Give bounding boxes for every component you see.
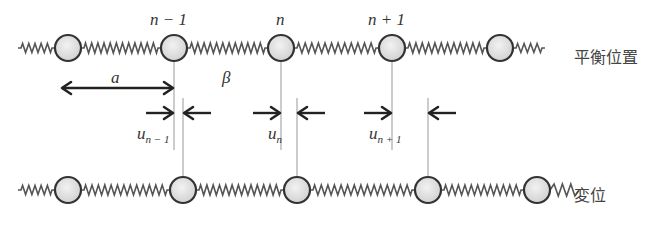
mass-ball-icon	[170, 177, 196, 203]
mass-ball-icon	[161, 35, 187, 61]
spring-mass-chain-diagram	[0, 0, 660, 231]
displacement-label-n: un	[268, 124, 282, 144]
u-subscript: n + 1	[378, 133, 402, 145]
spring-icon	[18, 44, 55, 53]
u-symbol: u	[369, 124, 378, 143]
mass-ball-icon	[268, 35, 294, 61]
mass-label-n: n	[276, 10, 285, 30]
mass-label-n-plus-1: n + 1	[368, 10, 405, 30]
displacement-label-n-plus-1: un + 1	[369, 124, 401, 144]
spring-icon	[18, 186, 55, 195]
mass-ball-icon	[284, 177, 310, 203]
equilibrium-position-label: 平衡位置	[574, 44, 638, 68]
mass-ball-icon	[55, 177, 81, 203]
guide-lines	[174, 48, 428, 190]
u-subscript: n	[277, 133, 283, 145]
spring-icon	[196, 185, 284, 195]
u-symbol: u	[268, 124, 277, 143]
arrows	[62, 82, 456, 119]
lattice-spacing-label: a	[111, 68, 120, 88]
spring-icon	[187, 43, 268, 53]
spring-icon	[81, 185, 170, 195]
mass-ball-icon	[415, 177, 441, 203]
spring-icon	[81, 43, 161, 53]
displacement-label-n-minus-1: un − 1	[137, 124, 169, 144]
spring-icon	[294, 43, 379, 53]
spring-icon	[441, 185, 524, 195]
displacement-state-label: 変位	[574, 182, 606, 206]
spring-icon	[405, 43, 487, 53]
mass-label-n-minus-1: n − 1	[150, 10, 187, 30]
spring-constant-label: β	[222, 68, 230, 88]
mass-ball-icon	[55, 35, 81, 61]
u-symbol: u	[137, 124, 146, 143]
mass-ball-icon	[524, 177, 550, 203]
mass-ball-icon	[379, 35, 405, 61]
u-subscript: n − 1	[146, 133, 170, 145]
mass-ball-icon	[487, 35, 513, 61]
spring-icon	[310, 185, 415, 195]
spring-icon	[513, 44, 545, 53]
